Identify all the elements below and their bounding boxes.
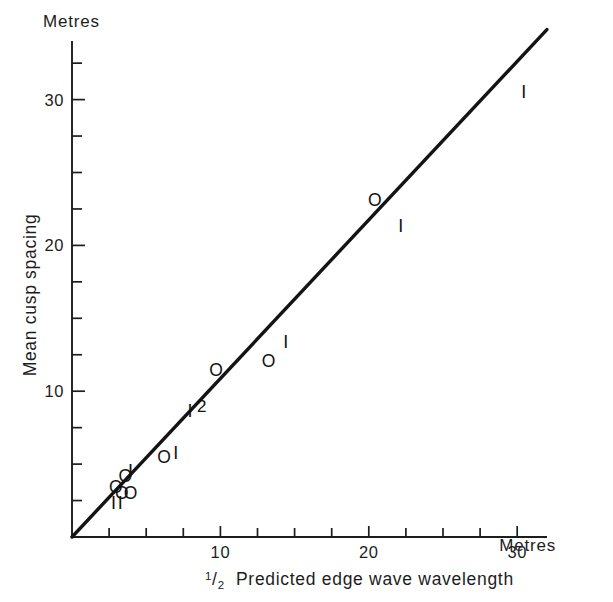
data-point-bar: I xyxy=(187,401,192,421)
x-tick-label: 10 xyxy=(211,543,231,561)
data-point-bar: I xyxy=(398,216,403,236)
fraction-numerator: 1 xyxy=(205,570,212,582)
fraction-denominator: 2 xyxy=(218,579,225,591)
data-point-bar: I xyxy=(521,82,526,102)
y-tick-label: 30 xyxy=(44,91,64,109)
figure-container: 102030 Metres Mean cusp spacing 102030 M… xyxy=(0,0,613,602)
x-axis-title-group: 1/2 Predicted edge wave wavelength xyxy=(205,569,514,591)
y-axis-ticks xyxy=(72,63,85,500)
scatter-plot-svg: 102030 Metres Mean cusp spacing 102030 M… xyxy=(0,0,613,602)
data-point-bar: I xyxy=(128,461,133,481)
x-tick-label: 20 xyxy=(359,543,379,561)
x-axis-title-fraction: 1/2 xyxy=(205,569,225,591)
data-point-circle: O xyxy=(209,360,223,380)
x-axis-group: 102030 Metres 1/2 Predicted edge wave wa… xyxy=(72,526,556,591)
data-point-circle: O xyxy=(368,190,382,210)
data-points-group: IIOOOOIOII2OOIOII xyxy=(109,82,526,513)
data-point-circle: O xyxy=(157,447,171,467)
x-axis-title-text: Predicted edge wave wavelength xyxy=(236,569,514,589)
y-tick-label: 10 xyxy=(44,382,64,400)
x-axis-ticks xyxy=(109,526,517,537)
data-point-bar: I xyxy=(283,332,288,352)
x-axis-unit-label: Metres xyxy=(499,536,556,555)
y-axis-group: 102030 Metres Mean cusp spacing xyxy=(20,12,100,537)
data-point-bar: I xyxy=(173,443,178,463)
y-axis-unit-label: Metres xyxy=(43,12,100,31)
data-point-circle: O xyxy=(262,351,276,371)
y-axis-tick-labels: 102030 xyxy=(44,91,64,401)
y-tick-label: 20 xyxy=(44,236,64,254)
y-axis-title: Mean cusp spacing xyxy=(20,214,40,377)
reference-line-1to1 xyxy=(72,30,547,537)
data-point-count: 2 xyxy=(197,397,206,416)
x-axis-tick-labels: 102030 xyxy=(211,543,527,561)
